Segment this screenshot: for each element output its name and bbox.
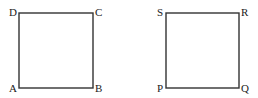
vertex-label-d: D xyxy=(9,6,17,18)
vertex-label-a: A xyxy=(9,82,17,94)
vertex-label-r: R xyxy=(241,6,249,18)
diagram-canvas: D C A B S R P Q xyxy=(0,0,258,98)
square-pqrs: S R P Q xyxy=(157,6,249,94)
vertex-label-s: S xyxy=(157,6,163,18)
square-abcd: D C A B xyxy=(9,6,102,94)
vertex-label-q: Q xyxy=(241,82,249,94)
vertex-label-c: C xyxy=(95,6,102,18)
square-pqrs-outline xyxy=(166,13,239,88)
vertex-label-b: B xyxy=(95,82,102,94)
square-abcd-outline xyxy=(19,13,93,88)
vertex-label-p: P xyxy=(157,82,163,94)
